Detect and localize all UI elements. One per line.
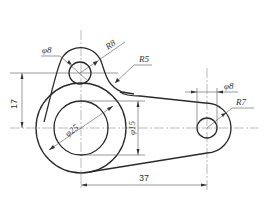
- dim-r8-label: R8: [103, 37, 118, 52]
- dim-horizontal-37: 37: [81, 173, 207, 187]
- dim-fillet: R5: [115, 54, 152, 83]
- arm-outline: [89, 92, 231, 172]
- dim-top-arc: R8: [80, 37, 125, 73]
- dim-phi25-label: φ25: [63, 122, 81, 139]
- dim-17-label: 17: [9, 99, 19, 109]
- technical-drawing: 17 φ8 R8 R5 φ25 φ15: [0, 0, 268, 200]
- part-outline: [36, 48, 231, 173]
- dim-right-hole-label: φ8: [224, 81, 234, 91]
- dim-37-label: 37: [139, 173, 149, 183]
- dim-top-hole-label: φ8: [42, 45, 52, 55]
- dim-r7-label: R7: [235, 97, 246, 107]
- dim-phi15-label: φ15: [127, 121, 137, 135]
- dim-r5-label: R5: [138, 54, 149, 64]
- dim-vertical-17: 17: [9, 73, 24, 128]
- top-lobe-outline: [44, 48, 134, 122]
